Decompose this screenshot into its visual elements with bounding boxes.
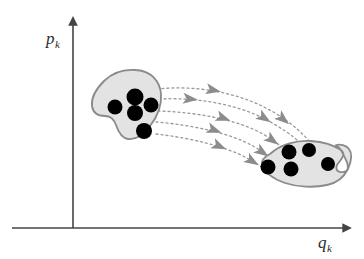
axis-label-base: q	[318, 233, 327, 252]
flow-streamline	[157, 88, 310, 142]
flow-streamline	[156, 134, 267, 171]
flow-streamline	[159, 99, 306, 149]
flow-arrowhead	[206, 122, 224, 137]
phase-space-diagram: pkqk	[0, 0, 364, 259]
particle-dot	[108, 100, 123, 115]
flow-arrowhead	[255, 110, 274, 127]
phase-space-figure: pkqk	[0, 0, 364, 259]
axes	[12, 18, 350, 228]
particle-dot	[284, 162, 299, 177]
axis-labels: pkqk	[45, 29, 333, 254]
particle-dot	[282, 145, 297, 160]
flow-arrowhead	[263, 131, 282, 149]
momentum-axis-label: pk	[45, 29, 61, 50]
particle-dot	[136, 123, 152, 139]
particle-dot	[302, 143, 316, 157]
flow-arrowhead	[243, 153, 262, 170]
initial-phase-volume	[92, 70, 161, 139]
particle-dot	[144, 98, 159, 113]
particle-dot	[127, 105, 143, 121]
axis-label-base: p	[45, 29, 55, 48]
particle-dot	[261, 160, 276, 175]
axis-label-subscript: k	[55, 38, 61, 50]
position-axis-label: qk	[318, 233, 333, 254]
evolved-phase-volume	[261, 141, 352, 187]
axis-label-subscript: k	[327, 242, 333, 254]
flow-arrowhead	[210, 138, 228, 154]
particle-dot	[127, 89, 144, 106]
particle-dot	[321, 157, 335, 171]
phase-volumes	[92, 70, 351, 187]
